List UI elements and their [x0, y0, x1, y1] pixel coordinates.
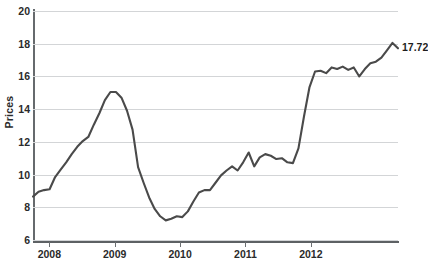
x-axis-tick-label: 2010 [158, 249, 202, 260]
y-axis-tick-label: 8 [6, 202, 30, 213]
y-axis-tick-label: 6 [6, 235, 30, 246]
x-axis-tick [180, 242, 181, 247]
series-line [33, 11, 398, 240]
x-axis-tick-label: 2008 [27, 249, 71, 260]
x-axis-tick-label: 2011 [223, 249, 267, 260]
x-axis-tick-label: 2009 [93, 249, 137, 260]
y-axis-tick-label: 18 [6, 39, 30, 50]
y-axis-tick-label: 20 [6, 6, 30, 17]
gridline [33, 240, 398, 241]
x-axis-tick [115, 242, 116, 247]
end-value-label: 17.72 [402, 42, 428, 53]
x-axis-line [33, 241, 399, 243]
x-axis-tick [49, 242, 50, 247]
y-axis-tick-label: 12 [6, 137, 30, 148]
plot-area [33, 11, 398, 240]
y-axis-tick-label: 14 [6, 104, 30, 115]
y-axis-tick-labels: 68101214161820 [0, 0, 30, 267]
x-axis-tick [245, 242, 246, 247]
y-axis-tick-label: 16 [6, 71, 30, 82]
x-axis-tick-label: 2012 [289, 249, 333, 260]
y-axis-tick-label: 10 [6, 170, 30, 181]
x-axis-tick [311, 242, 312, 247]
